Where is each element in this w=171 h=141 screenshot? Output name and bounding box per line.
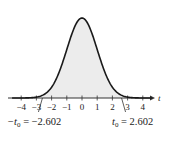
x-tick-label: −2 xyxy=(47,102,57,112)
x-axis-label: t xyxy=(158,93,161,103)
x-tick-label: 1 xyxy=(95,102,100,112)
x-tick-label: 2 xyxy=(110,102,115,112)
x-tick-label: 4 xyxy=(141,102,146,112)
x-tick-label: −4 xyxy=(16,102,26,112)
right-critical-label: t0 = 2.602 xyxy=(112,116,153,129)
shaded-area xyxy=(42,18,121,98)
left-critical-label: −t0 = −2.602 xyxy=(7,116,61,129)
x-tick-label: 0 xyxy=(80,102,85,112)
x-tick-label: 3 xyxy=(125,102,130,112)
x-tick-label: −1 xyxy=(62,102,72,112)
t-distribution-chart: t −4−3−2−101234 −t0 = −2.602 t0 = 2.602 xyxy=(0,0,171,141)
